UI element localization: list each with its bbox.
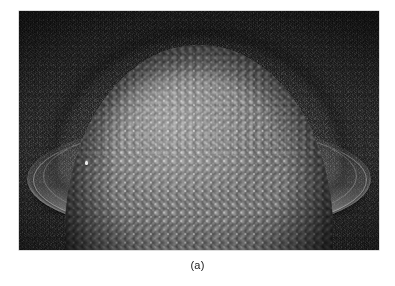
dome-structure bbox=[65, 45, 333, 250]
micrograph-image bbox=[19, 11, 379, 250]
figure-caption: (a) bbox=[0, 259, 395, 271]
bright-particle-speck bbox=[85, 161, 88, 165]
dome-edge-shading bbox=[65, 45, 333, 250]
figure-panel: (a) bbox=[0, 0, 395, 286]
